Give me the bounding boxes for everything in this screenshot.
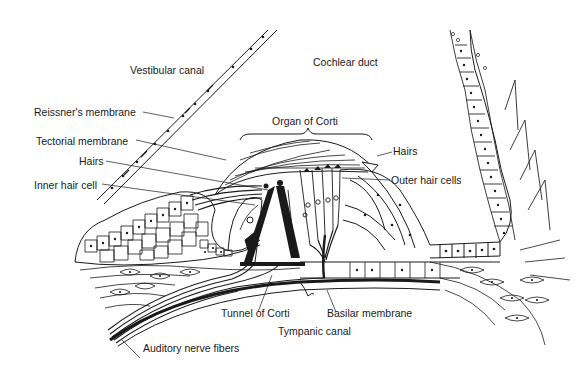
label-hairs-left: Hairs [79,155,104,167]
spiral-limbus-cells [75,192,260,265]
label-auditory-nerve-fibers: Auditory nerve fibers [143,342,239,354]
organ-of-corti-brace [240,128,372,140]
label-hairs-right: Hairs [393,145,418,157]
label-tunnel-of-corti: Tunnel of Corti [221,307,289,319]
label-cochlear-duct: Cochlear duct [313,56,378,68]
label-basilar-membrane: Basilar membrane [327,307,412,319]
label-inner-hair-cell: Inner hair cell [34,179,97,191]
label-outer-hair-cells: Outer hair cells [391,174,462,186]
label-vestibular-canal: Vestibular canal [130,64,204,76]
label-reissners-membrane: Reissner's membrane [34,106,136,118]
label-tectorial-membrane: Tectorial membrane [36,135,128,147]
outer-hair-cells-shape [288,164,341,278]
spiral-ligament-cells [450,30,550,242]
label-tympanic-canal: Tympanic canal [278,325,351,337]
label-organ-of-corti: Organ of Corti [272,115,338,127]
